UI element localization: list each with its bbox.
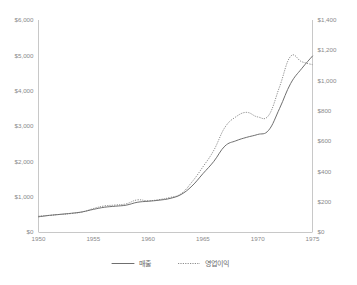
y-axis-right-tick-label: $400 xyxy=(318,168,332,175)
y-axis-left-tick-label: $4,000 xyxy=(15,87,34,94)
x-axis-tick-label: 1970 xyxy=(251,235,265,242)
x-axis-tick-label: 1975 xyxy=(306,235,320,242)
y-axis-left-tick-label: $5,000 xyxy=(15,52,34,59)
axis-right: $0$200$400$600$800$1,000$1,200$1,400 xyxy=(313,16,337,235)
y-axis-right-tick-label: $1,400 xyxy=(318,16,337,23)
y-axis-left-tick-label: $6,000 xyxy=(15,16,34,23)
y-axis-right-tick-label: $800 xyxy=(318,107,332,114)
legend-label-revenue: 매출 xyxy=(139,259,152,268)
y-axis-right-tick-label: $600 xyxy=(318,137,332,144)
y-axis-left-tick-label: $2,000 xyxy=(15,158,34,165)
y-axis-left-tick-label: $1,000 xyxy=(15,193,34,200)
x-axis-tick-label: 1965 xyxy=(196,235,210,242)
y-axis-left-tick-label: $3,000 xyxy=(15,122,34,129)
line-chart: $0$1,000$2,000$3,000$4,000$5,000$6,000 $… xyxy=(0,0,357,285)
chart-container: $0$1,000$2,000$3,000$4,000$5,000$6,000 $… xyxy=(0,0,357,285)
x-axis-tick-label: 1960 xyxy=(141,235,155,242)
axis-left: $0$1,000$2,000$3,000$4,000$5,000$6,000 xyxy=(15,16,39,235)
axis-bottom: 195019551960196519701975 xyxy=(32,233,320,243)
legend-label-operating-profit: 영업이익 xyxy=(205,259,229,268)
legend: 매출 영업이익 xyxy=(112,259,229,268)
series-group xyxy=(39,55,313,217)
y-axis-right-tick-label: $1,200 xyxy=(318,46,337,53)
x-axis-tick-label: 1950 xyxy=(32,235,46,242)
series-line-revenue xyxy=(39,56,313,217)
y-axis-right-tick-label: $1,000 xyxy=(318,77,337,84)
y-axis-right-tick-label: $200 xyxy=(318,198,332,205)
x-axis-tick-label: 1955 xyxy=(86,235,100,242)
series-line-operating-profit xyxy=(39,55,313,216)
